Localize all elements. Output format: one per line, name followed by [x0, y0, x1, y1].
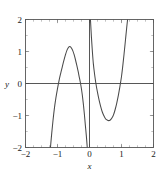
y-tick-label: 2: [18, 15, 23, 25]
x-tick-label: 0: [87, 149, 92, 159]
x-tick-label: −1: [53, 149, 63, 159]
x-tick-label: 1: [119, 149, 124, 159]
x-tick-label: −2: [21, 149, 31, 159]
chart-figure: −2−1012 −2−1012 x y: [0, 0, 165, 171]
y-axis-label: y: [4, 79, 9, 89]
curve-curve-branch-right: [90, 20, 127, 121]
plot-canvas: −2−1012 −2−1012 x y: [0, 0, 165, 171]
x-axis-tick-labels: −2−1012: [21, 149, 156, 159]
y-tick-label: −1: [12, 111, 22, 121]
curve-curve-branch-left: [50, 47, 87, 148]
y-tick-label: 0: [18, 79, 23, 89]
x-tick-label: 2: [151, 149, 156, 159]
x-axis-label: x: [87, 161, 92, 171]
y-axis-tick-labels: −2−1012: [12, 15, 22, 153]
y-tick-label: 1: [18, 47, 23, 57]
y-tick-label: −2: [12, 143, 22, 153]
